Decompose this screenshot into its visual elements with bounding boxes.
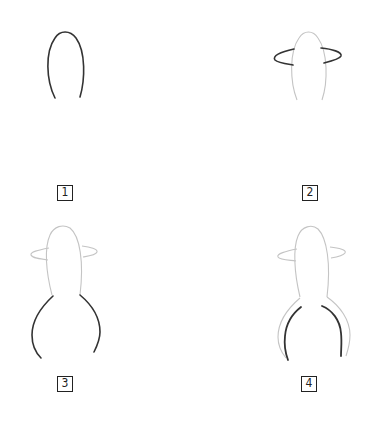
tutorial-diagram — [0, 0, 376, 430]
head-oval-stroke — [48, 32, 84, 98]
step-label-1: 1 — [57, 185, 73, 201]
head-oval-previous — [292, 32, 326, 100]
step-number: 1 — [62, 185, 69, 199]
body-right-leg-stroke — [80, 295, 100, 352]
step-3-drawing — [31, 226, 100, 358]
step-label-3: 3 — [57, 376, 73, 392]
step-label-4: 4 — [301, 376, 317, 392]
inner-left-leg-stroke — [285, 307, 301, 360]
step-label-2: 2 — [302, 185, 318, 201]
body-left-leg-stroke — [32, 296, 53, 358]
body-left-leg-previous — [278, 298, 300, 358]
inner-right-leg-stroke — [322, 306, 341, 356]
body-right-leg-previous — [327, 297, 350, 356]
brim-right-previous — [82, 246, 97, 257]
step-number: 2 — [307, 185, 314, 199]
step-2-drawing — [274, 32, 341, 100]
head-outline-previous — [46, 226, 81, 295]
brim-left-stroke — [274, 49, 294, 65]
brim-right-previous — [330, 247, 345, 258]
step-1-drawing — [48, 32, 84, 98]
step-number: 4 — [306, 376, 313, 390]
head-outline-previous — [295, 226, 329, 297]
brim-left-previous — [278, 249, 297, 261]
step-4-drawing — [278, 226, 350, 360]
step-number: 3 — [62, 376, 69, 390]
